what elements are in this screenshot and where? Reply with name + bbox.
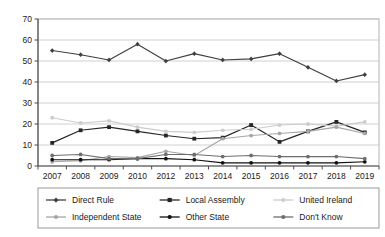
data-point	[363, 157, 367, 161]
data-point	[278, 155, 282, 159]
legend-label: Direct Rule	[72, 195, 114, 205]
data-point	[164, 153, 168, 157]
data-point	[168, 198, 172, 202]
data-point	[334, 155, 338, 159]
data-point	[50, 158, 54, 162]
data-point	[50, 116, 54, 120]
data-point	[79, 153, 83, 157]
x-tick-label: 2007	[43, 171, 62, 181]
plot-background	[38, 19, 379, 166]
chart-legend: Direct RuleLocal AssemblyUnited IrelandI…	[38, 188, 379, 228]
y-axis: 010203040506070	[23, 14, 38, 171]
data-point	[107, 119, 111, 123]
data-point	[50, 141, 54, 145]
data-point	[278, 123, 282, 127]
data-point	[221, 155, 225, 159]
data-point	[107, 157, 111, 161]
data-point	[306, 155, 310, 159]
data-point	[249, 161, 253, 165]
y-tick-label: 30	[23, 98, 33, 108]
y-tick-label: 10	[23, 140, 33, 150]
line-chart: 010203040506070 200720082009201020122013…	[0, 0, 385, 237]
data-point	[334, 120, 338, 124]
data-point	[192, 137, 196, 141]
x-tick-label: 2012	[156, 171, 175, 181]
x-tick-label: 2016	[270, 171, 289, 181]
x-tick-label: 2019	[355, 171, 374, 181]
data-point	[249, 127, 253, 131]
data-point	[50, 154, 54, 158]
data-point	[278, 132, 282, 136]
data-point	[334, 161, 338, 165]
data-point	[79, 128, 83, 132]
data-point	[306, 161, 310, 165]
data-point	[221, 128, 225, 132]
data-point	[221, 137, 225, 141]
data-point	[107, 125, 111, 129]
data-point	[192, 158, 196, 162]
x-tick-label: 2017	[298, 171, 317, 181]
x-tick-label: 2015	[242, 171, 261, 181]
data-point	[221, 161, 225, 165]
data-point	[278, 161, 282, 165]
data-point	[164, 157, 168, 161]
data-point	[306, 129, 310, 133]
y-tick-label: 60	[23, 35, 33, 45]
legend-label: Local Assembly	[186, 195, 246, 205]
x-tick-label: 2009	[100, 171, 119, 181]
x-tick-label: 2018	[327, 171, 346, 181]
data-point	[164, 134, 168, 138]
y-tick-label: 20	[23, 119, 33, 129]
x-tick-label: 2010	[128, 171, 147, 181]
y-tick-label: 70	[23, 14, 33, 24]
legend-label: United Ireland	[299, 195, 352, 205]
x-tick-label: 2013	[185, 171, 204, 181]
data-point	[281, 198, 285, 202]
data-point	[249, 134, 253, 138]
data-point	[249, 123, 253, 127]
legend-label: Don't Know	[299, 212, 343, 222]
data-point	[334, 125, 338, 129]
data-point	[278, 140, 282, 144]
x-axis: 2007200820092010201220132014201520162017…	[38, 166, 379, 181]
data-point	[192, 131, 196, 135]
data-point	[306, 122, 310, 126]
data-point	[54, 215, 58, 219]
y-tick-label: 50	[23, 56, 33, 66]
data-point	[281, 215, 285, 219]
data-point	[79, 158, 83, 162]
y-tick-label: 0	[27, 161, 32, 171]
data-point	[79, 121, 83, 125]
data-point	[136, 129, 140, 133]
data-point	[192, 153, 196, 157]
data-point	[168, 215, 172, 219]
data-point	[136, 125, 140, 129]
x-tick-label: 2014	[213, 171, 232, 181]
legend-label: Independent State	[72, 212, 142, 222]
legend-label: Other State	[186, 212, 230, 222]
data-point	[363, 132, 367, 136]
data-point	[164, 129, 168, 133]
line-chart-container: 010203040506070 200720082009201020122013…	[0, 0, 385, 237]
data-point	[249, 154, 253, 158]
data-point	[136, 157, 140, 161]
data-point	[363, 120, 367, 124]
y-tick-label: 40	[23, 77, 33, 87]
x-tick-label: 2008	[71, 171, 90, 181]
